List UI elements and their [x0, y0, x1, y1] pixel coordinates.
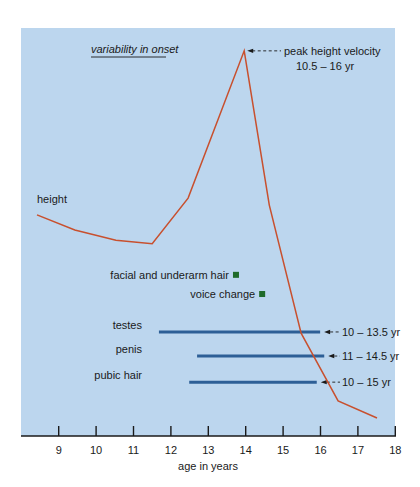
range-name-label: pubic hair	[94, 369, 142, 381]
x-tick-label: 14	[240, 444, 252, 456]
annotation-heading: variability in onset	[91, 43, 179, 55]
peak-range-label: 10.5 – 16 yr	[296, 60, 354, 72]
range-name-label: testes	[113, 319, 143, 331]
range-value-label: 11 – 14.5 yr	[342, 350, 400, 362]
marker-label: voice change	[190, 288, 255, 300]
x-tick-label: 9	[56, 444, 62, 456]
plot-background	[21, 28, 395, 436]
series-label-height: height	[37, 193, 67, 205]
x-tick-label: 17	[352, 444, 364, 456]
marker-square	[259, 291, 265, 297]
x-tick-label: 11	[128, 444, 139, 456]
x-tick-label: 16	[314, 444, 326, 456]
x-tick-label: 13	[202, 444, 214, 456]
range-value-label: 10 – 13.5 yr	[342, 326, 400, 338]
puberty-chart: testes10 – 13.5 yrpenis11 – 14.5 yrpubic…	[0, 0, 420, 487]
x-axis-label: age in years	[178, 460, 238, 472]
x-tick-label: 10	[90, 444, 102, 456]
range-name-label: penis	[116, 343, 143, 355]
marker-square	[233, 272, 239, 278]
marker-label: facial and underarm hair	[110, 269, 229, 281]
range-value-label: 10 – 15 yr	[342, 376, 391, 388]
peak-label: peak height velocity	[284, 45, 381, 57]
x-tick-label: 12	[165, 444, 177, 456]
x-tick-label: 15	[277, 444, 289, 456]
x-tick-label: 18	[389, 444, 401, 456]
